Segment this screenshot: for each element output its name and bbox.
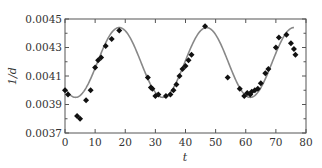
x-tick-label: 30 bbox=[149, 136, 162, 148]
y-axis: 0.00370.00390.00410.00430.0045 bbox=[25, 13, 306, 139]
y-tick-label: 0.0039 bbox=[25, 98, 62, 110]
data-point bbox=[167, 92, 173, 98]
x-tick-label: 10 bbox=[88, 136, 101, 148]
x-axis: 01020304050607080 bbox=[62, 19, 313, 148]
y-tick-label: 0.0041 bbox=[25, 70, 62, 82]
x-tick-label: 0 bbox=[62, 136, 69, 148]
x-tick-label: 60 bbox=[239, 136, 252, 148]
x-tick-label: 80 bbox=[299, 136, 312, 148]
data-point bbox=[288, 40, 294, 46]
data-point bbox=[225, 74, 231, 80]
y-tick-label: 0.0037 bbox=[25, 127, 62, 139]
x-tick-label: 40 bbox=[179, 136, 192, 148]
plot-frame bbox=[65, 19, 306, 133]
data-point bbox=[88, 87, 94, 93]
data-point bbox=[92, 64, 98, 70]
x-tick-label: 50 bbox=[209, 136, 222, 148]
data-point bbox=[176, 73, 182, 79]
x-tick-label: 20 bbox=[119, 136, 132, 148]
model-curve bbox=[65, 28, 294, 98]
data-point bbox=[276, 35, 282, 41]
data-point bbox=[291, 46, 297, 52]
x-tick-label: 70 bbox=[269, 136, 282, 148]
chart: 0.00370.00390.00410.00430.0045 010203040… bbox=[0, 0, 322, 168]
y-tick-label: 0.0045 bbox=[25, 13, 62, 25]
data-point bbox=[83, 97, 89, 103]
data-point bbox=[65, 92, 71, 98]
x-axis-title: t bbox=[183, 151, 188, 164]
data-point bbox=[292, 52, 298, 58]
y-tick-label: 0.0043 bbox=[25, 41, 62, 53]
plot-border bbox=[65, 19, 306, 133]
y-axis-title: 1/d bbox=[6, 67, 19, 85]
